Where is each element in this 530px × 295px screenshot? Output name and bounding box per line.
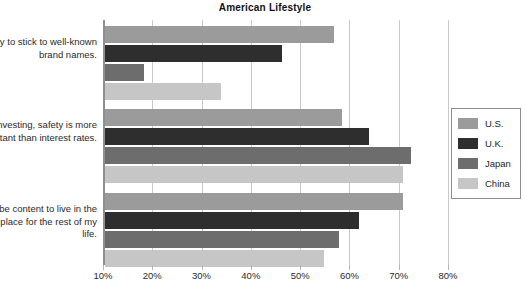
bar-0-japan[interactable]: [105, 64, 144, 81]
legend-swatch-china: [458, 178, 478, 189]
legend-item-us[interactable]: U.S.: [458, 115, 515, 132]
chart-container: American Lifestyle I try to stick to wel…: [0, 0, 530, 295]
x-tick-label-70: 70%: [379, 270, 419, 281]
x-tick-label-30: 30%: [182, 270, 222, 281]
category-label-2: I would be content to live in the same p…: [0, 203, 97, 241]
legend-item-china[interactable]: China: [458, 175, 515, 192]
x-tick-label-10: 10%: [83, 270, 123, 281]
legend-swatch-uk: [458, 138, 478, 149]
bar-1-uk[interactable]: [105, 128, 369, 145]
x-tick-label-60: 60%: [329, 270, 369, 281]
x-tick-label-50: 50%: [280, 270, 320, 281]
category-label-1: When investing, safety is more important…: [0, 119, 97, 144]
legend-label-us: U.S.: [485, 118, 503, 129]
bars-layer: [105, 20, 448, 265]
category-label-0: I try to stick to well-known brand names…: [0, 36, 97, 61]
legend-label-uk: U.K.: [485, 138, 503, 149]
legend: U.S. U.K. Japan China: [451, 108, 521, 199]
legend-item-uk[interactable]: U.K.: [458, 135, 515, 152]
legend-item-japan[interactable]: Japan: [458, 155, 515, 172]
x-tick-label-20: 20%: [132, 270, 172, 281]
bar-1-us[interactable]: [105, 109, 342, 126]
bar-2-us[interactable]: [105, 193, 403, 210]
x-tick-label-40: 40%: [231, 270, 271, 281]
bar-0-uk[interactable]: [105, 45, 282, 62]
bar-1-japan[interactable]: [105, 147, 411, 164]
bar-group-1: [105, 109, 448, 185]
bar-group-0: [105, 26, 448, 102]
gridline-80: [448, 20, 449, 265]
bar-2-uk[interactable]: [105, 212, 359, 229]
x-tick-label-80: 80%: [428, 270, 468, 281]
bar-1-china[interactable]: [105, 166, 403, 183]
legend-label-china: China: [485, 178, 510, 189]
bar-0-us[interactable]: [105, 26, 334, 43]
bar-0-china[interactable]: [105, 83, 221, 100]
bar-group-2: [105, 193, 448, 269]
legend-label-japan: Japan: [485, 158, 511, 169]
x-axis: 10%20%30%40%50%60%70%80%: [103, 265, 448, 283]
plot-area: [103, 20, 448, 265]
legend-swatch-us: [458, 118, 478, 129]
chart-title: American Lifestyle: [0, 2, 530, 13]
legend-swatch-japan: [458, 158, 478, 169]
bar-2-japan[interactable]: [105, 231, 339, 248]
